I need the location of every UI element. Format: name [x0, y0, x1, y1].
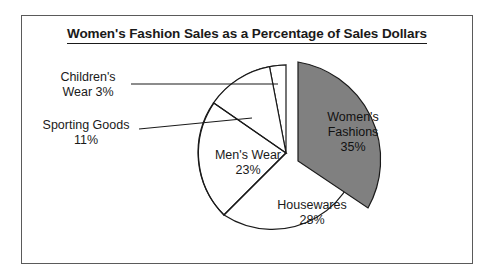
pie-chart-figure: Women's Fashion Sales as a Percentage of…	[0, 0, 493, 268]
pie-label-womens-fashions-value: 35%	[311, 140, 395, 155]
pie-label-womens-fashions-line2: Fashions	[311, 125, 395, 140]
pie-label-housewares-value: 28%	[256, 213, 368, 228]
pie-label-womens-fashions: Women's Fashions 35%	[311, 110, 395, 155]
pie-label-mens-wear-value: 23%	[196, 163, 300, 178]
pie-label-childrens-wear-line1: Children's	[46, 70, 130, 85]
pie-label-housewares-line1: Housewares	[256, 198, 368, 213]
pie-label-childrens-wear: Children's Wear 3%	[46, 70, 130, 100]
pie-label-sporting-goods-value: 11%	[33, 133, 139, 148]
pie-label-sporting-goods: Sporting Goods 11%	[33, 118, 139, 148]
pie-label-mens-wear-line1: Men's Wear	[196, 148, 300, 163]
pie-label-mens-wear: Men's Wear 23%	[196, 148, 300, 178]
pie-label-childrens-wear-value: Wear 3%	[46, 85, 130, 100]
pie-label-sporting-goods-line1: Sporting Goods	[33, 118, 139, 133]
pie-label-womens-fashions-line1: Women's	[311, 110, 395, 125]
pie-label-housewares: Housewares 28%	[256, 198, 368, 228]
